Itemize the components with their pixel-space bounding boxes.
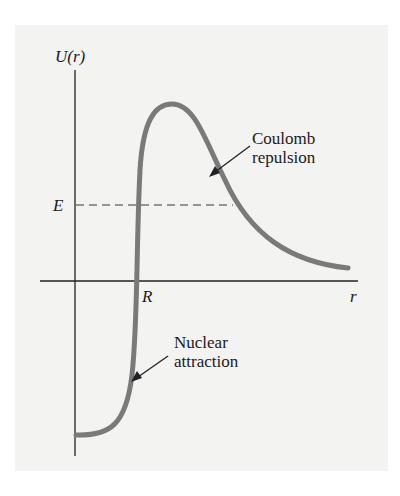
coulomb-label-line1: Coulomb	[252, 129, 315, 148]
radius-label: R	[141, 287, 153, 306]
nuclear-label-line1: Nuclear	[174, 333, 228, 352]
y-axis-label: U(r)	[55, 47, 86, 66]
x-axis-label: r	[350, 287, 357, 306]
potential-energy-diagram: U(r) r E R Coulomb repulsion Nuclear att…	[0, 0, 400, 496]
energy-label: E	[52, 196, 64, 215]
nuclear-arrow	[131, 356, 168, 382]
nuclear-label-line2: attraction	[174, 352, 239, 371]
coulomb-label-line2: repulsion	[252, 148, 316, 167]
